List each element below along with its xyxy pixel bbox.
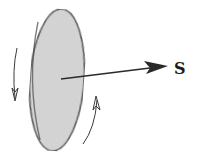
- spin-diagram: S: [0, 0, 201, 159]
- disk-shape: [25, 7, 89, 152]
- rotation-arrow-right-stroke: [83, 100, 97, 144]
- disk: [25, 7, 89, 152]
- vector-label-s: S: [174, 59, 186, 78]
- rotation-arrow-right: [83, 96, 100, 144]
- rotation-arrow-left: [12, 48, 18, 101]
